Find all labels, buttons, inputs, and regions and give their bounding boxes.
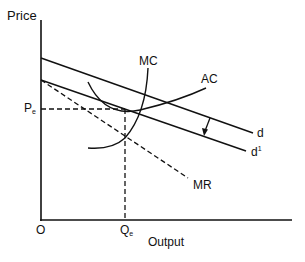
origin-label: O [36,224,45,236]
ac-label: AC [201,73,218,85]
demand-curve-d [41,58,253,133]
demand-curve-d1 [41,80,246,151]
mr-label: MR [193,179,212,191]
equilibrium-quantity-label: Qe [120,224,133,237]
marginal-cost-curve [88,68,148,148]
mc-label: MC [139,55,158,67]
equilibrium-price-label: Pe [24,102,36,115]
arrow-down-icon [202,128,208,136]
d1-symbol: d [251,145,258,159]
d-label: d [257,127,264,139]
marginal-revenue-curve [41,80,188,178]
quantity-symbol: Q [120,223,129,237]
price-subscript: e [32,108,36,115]
quantity-subscript: e [129,230,133,237]
d1-label: d1 [251,145,262,158]
y-axis-label: Price [7,9,37,22]
d1-superscript: 1 [258,145,262,152]
price-symbol: P [24,101,32,115]
x-axis-label: Output [148,236,184,248]
